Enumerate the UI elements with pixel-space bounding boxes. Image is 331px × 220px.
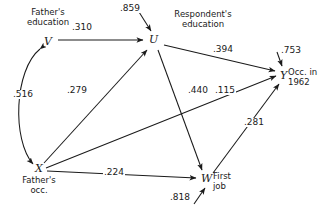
node-caption-first-job: First job <box>213 172 253 192</box>
node-caption-fathers-occ: Father's occ. <box>8 176 70 196</box>
coefficient-x-to-u: .279 <box>66 86 88 95</box>
coefficient-u-to-y: .394 <box>212 45 234 54</box>
residual-arrow-u <box>139 12 151 31</box>
node-letter-y: Y <box>280 70 287 81</box>
path-diagram: V X U W Y Father's education Father's oc… <box>0 0 331 220</box>
node-caption-fathers-education: Father's education <box>17 8 79 28</box>
node-caption-occ-in-1962: Occ. in 1962 <box>288 68 330 88</box>
node-letter-x: X <box>35 163 43 174</box>
path-curve-v-x-correlation <box>19 49 40 164</box>
node-letter-v: V <box>44 36 52 47</box>
node-caption-respondents-education: Respondent's education <box>160 10 246 30</box>
coefficient-w-to-y: .281 <box>243 118 265 127</box>
coefficient-residual-u: .859 <box>119 4 141 13</box>
coefficient-v-x-correlation: .516 <box>12 90 34 99</box>
path-arrow-x-to-u <box>44 50 147 163</box>
coefficient-residual-w: .818 <box>169 193 191 202</box>
coefficient-u-to-w: .440 <box>187 86 209 95</box>
coefficient-x-to-w: .224 <box>103 168 125 177</box>
coefficient-residual-y: .753 <box>280 46 302 55</box>
node-letter-w: W <box>201 173 212 184</box>
coefficient-v-to-u: .310 <box>71 23 93 32</box>
path-arrow-u-to-w <box>158 50 202 170</box>
coefficient-x-to-y: .115 <box>214 86 236 95</box>
residual-arrow-w <box>194 188 205 204</box>
node-letter-u: U <box>149 34 158 45</box>
